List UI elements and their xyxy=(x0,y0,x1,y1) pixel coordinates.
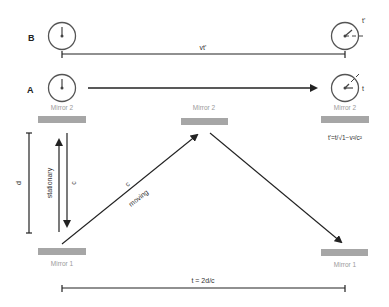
row-b-label: B xyxy=(28,33,35,43)
time-dilation-formula: t'=t/√1−v²/c² xyxy=(328,134,363,141)
mirror1-right-label: Mirror 1 xyxy=(334,261,357,268)
t-prime-label: t' xyxy=(362,17,365,24)
clock-icon-a-start xyxy=(49,75,76,102)
stationary-label: stationary xyxy=(46,167,54,198)
total-time-span xyxy=(62,285,345,292)
total-time-label: t = 2d/c xyxy=(191,277,215,284)
mirror2-right-label: Mirror 2 xyxy=(334,104,357,111)
t-label: t xyxy=(362,85,364,92)
mirror2-left-label: Mirror 2 xyxy=(51,104,74,111)
mirror2-center-label: Mirror 2 xyxy=(193,104,216,111)
distance-d-span xyxy=(26,133,32,233)
d-label: d xyxy=(15,181,22,185)
mirror2-center xyxy=(181,118,228,125)
vt-prime-span xyxy=(62,51,345,58)
diagonal-down-arrow xyxy=(210,133,341,242)
row-a-label: A xyxy=(27,85,34,95)
diagonal-up-arrow xyxy=(62,135,197,244)
mirror1-right xyxy=(321,249,368,256)
clock-icon-b-end xyxy=(332,23,364,50)
clock-icon-a-end xyxy=(332,74,360,102)
mirror1-left-label: Mirror 1 xyxy=(51,260,74,267)
moving-label: moving xyxy=(127,188,150,208)
mirror2-right xyxy=(321,116,369,123)
mirror2-left xyxy=(38,116,86,123)
clock-icon-b-start xyxy=(49,23,76,50)
vt-prime-label: vt' xyxy=(200,44,207,51)
mirror1-left xyxy=(38,248,86,255)
light-clock-diagram: B A vt' t' t Mirror 2 xyxy=(0,0,389,307)
c-diagonal-label: c xyxy=(124,180,131,188)
c-vertical-label: c xyxy=(70,181,77,185)
